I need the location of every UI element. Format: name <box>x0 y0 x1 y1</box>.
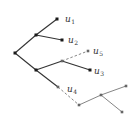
label-u5: u5 <box>93 46 103 57</box>
edge-e-f <box>79 95 101 105</box>
node-e <box>78 104 81 107</box>
node-c <box>61 60 64 63</box>
edge-c-u3 <box>62 61 90 70</box>
edge-a-u1 <box>36 19 57 35</box>
edge-b-d <box>36 70 58 87</box>
label-u2: u2 <box>68 35 78 46</box>
node-f <box>100 94 103 97</box>
label-u1: u1 <box>65 14 75 25</box>
leaf-labels: u1u2u5u3u4 <box>65 14 104 95</box>
node-a <box>35 34 38 37</box>
node-u1 <box>56 18 59 21</box>
tree-diagram: u1u2u5u3u4 <box>0 0 135 124</box>
label-u3: u3 <box>94 66 104 77</box>
edge-f-h <box>101 95 122 112</box>
edge-b-c <box>36 61 62 70</box>
edge-root-a <box>15 35 36 53</box>
edge-a-u2 <box>36 35 62 40</box>
node-root <box>14 52 17 55</box>
edge-f-g <box>101 86 126 95</box>
edge-root-b <box>15 53 36 70</box>
node-g <box>125 85 128 88</box>
edge-c-u5 <box>62 51 88 61</box>
node-u2 <box>61 39 64 42</box>
tree-edges <box>15 19 126 112</box>
node-h <box>121 111 124 114</box>
node-u3 <box>89 69 92 72</box>
node-b <box>35 69 38 72</box>
node-d <box>57 86 60 89</box>
label-u4: u4 <box>67 84 77 95</box>
node-u5 <box>87 50 90 53</box>
